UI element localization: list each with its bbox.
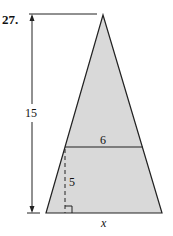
arrow-down-icon: [30, 206, 35, 213]
triangle-diagram: 27. 15 6 5 x: [0, 0, 173, 236]
label-segment-width: 6: [100, 133, 106, 147]
label-lower-height: 5: [69, 175, 75, 189]
label-base: x: [100, 216, 107, 230]
label-total-height: 15: [25, 106, 37, 120]
triangle: [46, 15, 162, 213]
arrow-up-icon: [30, 14, 35, 21]
problem-number: 27.: [2, 12, 18, 27]
